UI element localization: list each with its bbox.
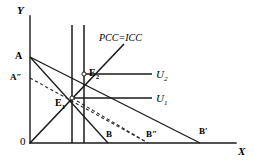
x-axis-label: X [238,146,245,157]
budget-line-a-double-prime-b-double-prime [30,78,148,143]
point-label-e2-subscript: 2 [96,73,100,81]
point-label-e2: E2 [89,68,99,81]
curve-label-u2-text: U [156,68,164,80]
point-label-b: B [106,130,112,139]
curve-label-u1: U1 [156,93,167,107]
point-label-b-double-prime: B″ [146,130,157,139]
point-label-e2-text: E [89,67,96,78]
curve-label-u1-text: U [156,92,164,104]
y-axis-label: Y [17,5,24,16]
origin-label: 0 [20,136,26,147]
curve-label-u1-subscript: 1 [164,99,168,107]
point-label-e1-text: E [55,97,62,108]
economics-diagram: Y X 0 A A″ E1 E2 U2 U1 PCC=ICC B B″ B′ [0,0,255,164]
curve-label-u2-subscript: 2 [164,75,168,83]
ray-label-pcc-icc: PCC=ICC [99,33,142,43]
point-marker-e2 [82,72,86,76]
point-label-e1-subscript: 1 [62,103,66,111]
point-marker-e1 [70,96,74,100]
point-label-b-prime: B′ [199,127,208,136]
point-label-e1: E1 [55,98,65,111]
curve-label-u2: U2 [156,69,167,83]
diagram-canvas [0,0,255,164]
point-label-a: A [15,51,22,61]
point-label-a-double-prime: A″ [10,73,21,82]
